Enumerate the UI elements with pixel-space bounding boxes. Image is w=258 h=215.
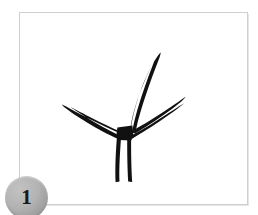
figure-number-badge: 1 (5, 176, 48, 215)
left-branch-stroke (62, 104, 120, 138)
sketch-area (19, 12, 248, 205)
sprout-sketch-icon (19, 12, 248, 205)
sprout-strokes (62, 52, 185, 182)
junction-node-stroke (116, 126, 133, 141)
figure-number-label: 1 (21, 187, 32, 208)
figure-panel: 1 (0, 0, 258, 215)
